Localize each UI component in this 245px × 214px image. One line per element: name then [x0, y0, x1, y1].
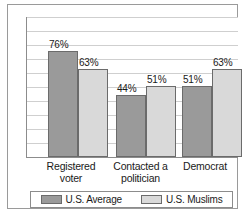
category-label-contacted-a-politician: Contacted a politician — [97, 160, 184, 184]
bar — [48, 51, 78, 157]
bar — [212, 69, 242, 157]
legend-item-us-average: U.S. Average — [41, 194, 122, 205]
category-axis-labels: Registered voter Contacted a politician … — [26, 160, 238, 190]
bar — [116, 95, 146, 157]
bar-value-label: 76% — [49, 39, 79, 50]
category-label-line1: Democrat — [172, 160, 238, 172]
bar — [146, 86, 176, 157]
legend-item-us-muslims: U.S. Muslims — [141, 194, 223, 205]
chart-legend: U.S. Average U.S. Muslims — [30, 191, 233, 208]
bar — [78, 69, 108, 157]
legend-label: U.S. Muslims — [166, 194, 223, 205]
category-label-democrat: Democrat — [172, 160, 238, 172]
legend-swatch-icon — [141, 195, 162, 204]
bar-value-label: 44% — [117, 83, 147, 94]
chart-frame: 76%63%44%51%51%63% Registered voter Cont… — [7, 4, 238, 209]
plot-area: 76%63%44%51%51%63% — [26, 17, 238, 158]
bars-layer: 76%63%44%51%51%63% — [27, 17, 238, 157]
bar-value-label: 63% — [213, 57, 243, 68]
bar — [182, 86, 212, 157]
bar-value-label: 63% — [79, 57, 109, 68]
bar-value-label: 51% — [183, 74, 213, 85]
category-label-line2: politician — [97, 172, 184, 184]
category-label-line1: Contacted a — [97, 160, 184, 172]
legend-swatch-icon — [41, 195, 62, 204]
bar-value-label: 51% — [147, 74, 177, 85]
chart-container: 76%63%44%51%51%63% Registered voter Cont… — [0, 0, 245, 214]
legend-label: U.S. Average — [66, 194, 122, 205]
